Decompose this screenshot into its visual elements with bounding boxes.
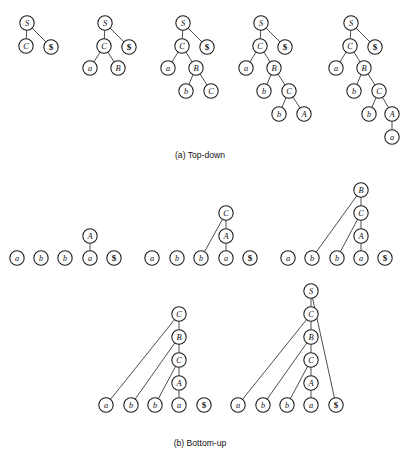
tree-node: a xyxy=(10,251,24,265)
node-label: a xyxy=(104,401,108,410)
tree-node: a xyxy=(281,251,295,265)
node-label: C xyxy=(176,356,182,365)
tree-edge xyxy=(267,343,307,399)
node-label: a xyxy=(88,64,92,73)
node-label: $ xyxy=(248,253,253,263)
tree-top-down-step-4: SC$aBbCbA xyxy=(239,16,311,121)
tree-node: $ xyxy=(378,251,392,265)
tree-node: $ xyxy=(243,251,257,265)
tree-node: b xyxy=(280,398,294,412)
node-label: C xyxy=(223,209,229,218)
tree-node: C xyxy=(282,84,296,98)
node-label: a xyxy=(286,254,290,263)
tree-edge xyxy=(316,196,357,252)
node-label: b xyxy=(335,254,339,263)
tree-edge xyxy=(266,28,280,42)
tree-node: A xyxy=(219,229,233,243)
node-label: $ xyxy=(205,42,210,52)
node-label: C xyxy=(308,310,314,319)
tree-node: B xyxy=(172,330,186,344)
tree-edge xyxy=(243,320,307,400)
figure-canvas: SC$SC$aBSC$aBbCSC$aBbCbASC$aBbCbAa(a) To… xyxy=(0,0,401,456)
tree-edge xyxy=(368,74,375,85)
node-label: b xyxy=(262,87,266,96)
node-label: a xyxy=(309,401,313,410)
node-label: $ xyxy=(334,400,339,410)
tree-node: B xyxy=(354,183,368,197)
tree-node: $ xyxy=(107,251,121,265)
node-label: A xyxy=(307,379,314,388)
tree-node: A xyxy=(297,107,311,121)
tree-node: a xyxy=(83,61,97,75)
node-label: C xyxy=(176,310,182,319)
node-label: b xyxy=(285,401,289,410)
tree-edge xyxy=(267,75,271,85)
node-label: C xyxy=(101,42,107,51)
tree-node: C xyxy=(97,39,111,53)
tree-node: a xyxy=(172,398,186,412)
node-label: C xyxy=(286,87,292,96)
tree-top-down-step-3: SC$aBbC xyxy=(161,16,218,98)
tree-node: $ xyxy=(200,40,214,54)
tree-node: b xyxy=(362,107,376,121)
tree-node: C xyxy=(304,307,318,321)
tree-edge xyxy=(32,28,46,42)
tree-node: b xyxy=(148,398,162,412)
tree-node: $ xyxy=(122,40,136,54)
tree-edges xyxy=(172,28,207,85)
node-label: a xyxy=(150,254,154,263)
tree-edge xyxy=(94,52,100,62)
node-label: A xyxy=(300,110,307,119)
tree-edge xyxy=(110,28,124,42)
node-label: A xyxy=(357,232,364,241)
node-label: C xyxy=(308,356,314,365)
tree-edges xyxy=(243,298,335,399)
tree-node: C xyxy=(172,307,186,321)
tree-node: C xyxy=(219,206,233,220)
node-label: a xyxy=(236,401,240,410)
tree-node: C xyxy=(354,206,368,220)
tree-node: A xyxy=(304,376,318,390)
tree-node: $ xyxy=(329,398,343,412)
tree-edge xyxy=(188,28,202,42)
tree-node: B xyxy=(357,61,371,75)
tree-edge xyxy=(172,52,178,62)
tree-bottom-up-step-3: abba$ACB xyxy=(281,183,392,265)
tree-edge xyxy=(111,320,175,400)
tree-bottom-up-step-4: abba$ACBC xyxy=(99,307,211,412)
tree-bottom-up-step-5: abba$ACBCS xyxy=(231,284,343,412)
node-label: b xyxy=(39,254,43,263)
tree-node: b xyxy=(330,251,344,265)
node-label: b xyxy=(63,254,67,263)
node-label: b xyxy=(199,254,203,263)
node-label: a xyxy=(244,64,248,73)
node-label: B xyxy=(361,64,366,73)
node-label: A xyxy=(86,232,93,241)
node-label: A xyxy=(388,110,395,119)
tree-edge xyxy=(135,343,175,399)
tree-node: S xyxy=(98,16,112,30)
node-label: $ xyxy=(49,42,54,52)
tree-edge xyxy=(293,97,300,108)
tree-node: $ xyxy=(197,398,211,412)
node-label: C xyxy=(208,87,214,96)
node-label: a xyxy=(177,401,181,410)
tree-node: C xyxy=(304,353,318,367)
node-label: C xyxy=(179,42,185,51)
tree-node: a xyxy=(145,251,159,265)
tree-node: B xyxy=(304,330,318,344)
node-label: $ xyxy=(383,253,388,263)
panel-top-down: SC$SC$aBSC$aBbCSC$aBbCbASC$aBbCbAa(a) To… xyxy=(19,16,399,160)
node-label: C xyxy=(347,42,353,51)
node-label: b xyxy=(261,401,265,410)
node-label: $ xyxy=(112,253,117,263)
tree-node: C xyxy=(175,39,189,53)
panel-caption: (a) Top-down xyxy=(175,150,225,160)
tree-node: C xyxy=(172,353,186,367)
tree-node: A xyxy=(172,376,186,390)
tree-edge xyxy=(108,52,114,62)
tree-node: C xyxy=(253,39,267,53)
tree-node: a xyxy=(231,398,245,412)
tree-top-down-step-2: SC$aB xyxy=(83,16,136,75)
node-label: C xyxy=(23,42,29,51)
